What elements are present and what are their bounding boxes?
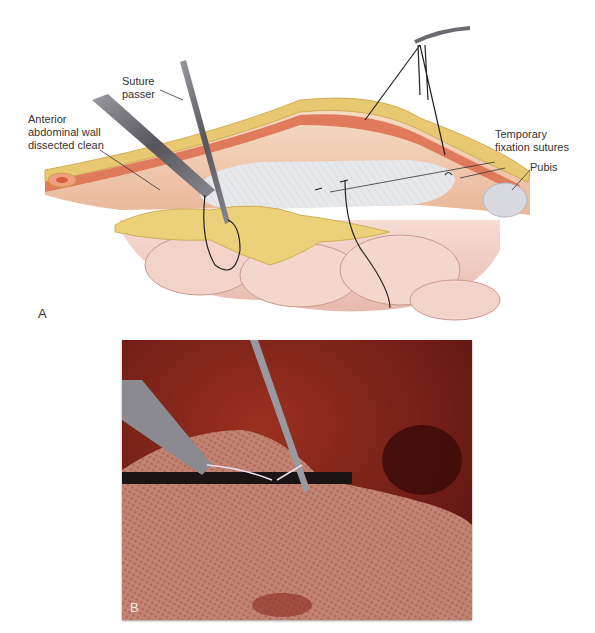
grasper-shaft bbox=[122, 472, 352, 484]
panel-b-photo: B bbox=[122, 340, 472, 620]
label-pubis: Pubis bbox=[530, 161, 558, 174]
label-suture-passer: Suture passer bbox=[122, 75, 155, 101]
panel-a-illustration: Suture passer Anterior abdominal wall di… bbox=[0, 0, 595, 330]
panel-b-letter: B bbox=[130, 600, 139, 615]
laparoscopic-photo bbox=[122, 340, 472, 620]
panel-a-letter: A bbox=[38, 306, 47, 321]
pubis-bone bbox=[483, 183, 527, 217]
surgical-illustration bbox=[0, 0, 595, 330]
label-anterior-abdominal-wall: Anterior abdominal wall dissected clean bbox=[28, 113, 104, 152]
mesh bbox=[200, 160, 455, 210]
label-temporary-fixation-sutures: Temporary fixation sutures bbox=[495, 128, 569, 154]
